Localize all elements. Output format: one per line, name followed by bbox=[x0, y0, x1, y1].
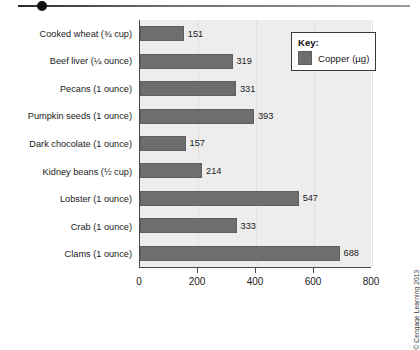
bar bbox=[140, 54, 233, 69]
bar-value-label: 214 bbox=[206, 166, 221, 176]
bar-row: 214 bbox=[140, 157, 371, 184]
x-axis-tick-label: 200 bbox=[189, 276, 206, 287]
bar-row: 331 bbox=[140, 75, 371, 102]
top-bullet-dot bbox=[37, 1, 47, 11]
bar-row: 688 bbox=[140, 240, 371, 267]
x-axis-tick bbox=[197, 268, 198, 273]
x-axis-tick-label: 600 bbox=[305, 276, 322, 287]
category-label: Dark chocolate (1 ounce) bbox=[0, 130, 136, 158]
copyright-credit: © Cengage Learning 2013 bbox=[413, 270, 420, 350]
category-label: Pecans (1 ounce) bbox=[0, 75, 136, 103]
category-label: Cooked wheat (¾ cup) bbox=[0, 20, 136, 48]
bar-value-label: 319 bbox=[237, 56, 252, 66]
x-axis-tick-label: 400 bbox=[247, 276, 264, 287]
bar-value-label: 331 bbox=[240, 84, 255, 94]
category-label-column: Cooked wheat (¾ cup)Beef liver (¼ ounce)… bbox=[0, 20, 136, 268]
bar-value-label: 157 bbox=[190, 138, 205, 148]
bar-value-label: 393 bbox=[258, 111, 273, 121]
bar bbox=[140, 218, 237, 233]
bar-value-label: 151 bbox=[188, 29, 203, 39]
category-label: Clams (1 ounce) bbox=[0, 241, 136, 269]
category-label: Pumpkin seeds (1 ounce) bbox=[0, 103, 136, 131]
legend-title: Key: bbox=[298, 37, 369, 48]
bar-row: 393 bbox=[140, 102, 371, 129]
bar bbox=[140, 246, 340, 261]
bar-row: 157 bbox=[140, 130, 371, 157]
legend-item-copper: Copper (µg) bbox=[298, 51, 369, 65]
bar-value-label: 688 bbox=[344, 248, 359, 258]
bar bbox=[140, 81, 236, 96]
bar-row: 333 bbox=[140, 212, 371, 239]
legend-item-label: Copper (µg) bbox=[318, 53, 369, 64]
bar-value-label: 547 bbox=[303, 193, 318, 203]
bar-row: 547 bbox=[140, 185, 371, 212]
category-label: Crab (1 ounce) bbox=[0, 213, 136, 241]
top-divider-rule bbox=[18, 5, 410, 7]
bar-value-label: 333 bbox=[241, 221, 256, 231]
bar bbox=[140, 136, 186, 151]
x-axis-tick bbox=[255, 268, 256, 273]
copper-bar-chart: Cooked wheat (¾ cup)Beef liver (¼ ounce)… bbox=[0, 14, 414, 298]
chart-legend: Key: Copper (µg) bbox=[291, 32, 376, 71]
bar bbox=[140, 26, 184, 41]
category-label: Kidney beans (½ cup) bbox=[0, 158, 136, 186]
bar bbox=[140, 163, 202, 178]
x-axis-tick-label: 0 bbox=[136, 276, 142, 287]
x-axis-tick-label: 800 bbox=[363, 276, 380, 287]
category-label: Beef liver (¼ ounce) bbox=[0, 48, 136, 76]
category-label: Lobster (1 ounce) bbox=[0, 185, 136, 213]
x-axis-tick bbox=[313, 268, 314, 273]
bar bbox=[140, 191, 299, 206]
legend-swatch-icon bbox=[298, 51, 312, 65]
x-axis: 0200400600800 bbox=[139, 268, 371, 298]
bar bbox=[140, 109, 254, 124]
